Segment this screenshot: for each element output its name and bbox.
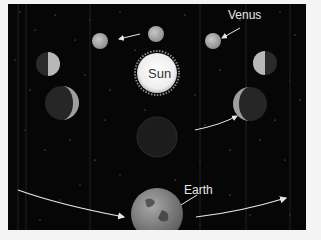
venus-phase-top-left [92,33,108,49]
earth-orbit-arrow-right [196,198,286,217]
earth-orbit-arrow-left [18,190,124,217]
orbit-diagram [8,4,306,230]
earth [131,188,183,230]
earth-label: Earth [184,184,213,196]
orbit-arrow-right [195,116,237,130]
orbit-arrow-top [119,34,140,39]
sun-label: Sun [148,67,171,80]
diagram-panel: Sun Venus Earth [8,4,306,230]
venus-phase-new [137,117,177,157]
venus-phase-upper-right [253,51,277,75]
venus-phase-top-right [205,33,221,49]
venus-phase-lower-right [233,87,267,121]
venus-phase-lower-left [45,86,79,120]
venus-phase-full [148,26,164,42]
venus-label: Venus [228,9,261,21]
venus-phase-upper-left [36,52,60,76]
venus-pointer-arrow [222,28,240,38]
